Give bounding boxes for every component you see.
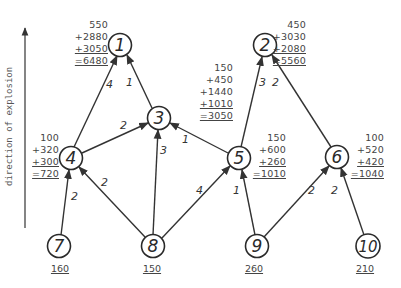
- weight-3-1: 1: [126, 76, 133, 89]
- sum-total: =6480: [75, 55, 108, 67]
- sum-add: +520: [351, 144, 384, 156]
- sum-add: +2080: [273, 43, 306, 55]
- weight-9-6: 2: [308, 184, 315, 197]
- svg-text:4: 4: [66, 148, 77, 168]
- node-9: 9: [246, 235, 269, 258]
- sum-base: 100: [32, 132, 59, 144]
- sum-add: +300: [32, 156, 59, 168]
- node-7: 7: [48, 235, 71, 258]
- sum-node-5: 150 +600 +260 =1010: [253, 132, 286, 180]
- sum-total: =720: [32, 168, 59, 180]
- leaf-value-7: 160: [51, 263, 69, 274]
- explosion-graph: 4 1 2 3 1 3 2 2 2 4 1 2 2 1 2 3 4 5 6 7 …: [0, 0, 401, 288]
- sum-node-2: 450 +3030 +2080 =5560: [273, 19, 306, 67]
- edge-8-4: [79, 167, 145, 237]
- weight-6-2: 2: [272, 76, 279, 89]
- edge-8-3: [153, 130, 158, 235]
- svg-text:2: 2: [260, 35, 271, 55]
- sum-base: 550: [75, 19, 108, 31]
- weight-5-2: 3: [259, 76, 266, 89]
- node-6: 6: [326, 146, 349, 169]
- edge-7-4: [61, 170, 69, 235]
- sum-node-1: 550 +2880 +3050 =6480: [75, 19, 108, 67]
- node-1: 1: [109, 34, 132, 57]
- sum-total: =5560: [273, 55, 306, 67]
- svg-text:3: 3: [154, 108, 165, 128]
- weight-8-5: 4: [196, 184, 203, 197]
- node-5: 5: [228, 147, 251, 170]
- leaf-value-10: 210: [356, 263, 374, 274]
- weight-9-5: 1: [233, 184, 240, 197]
- leaf-value-8: 150: [143, 263, 161, 274]
- weight-5-3: 1: [182, 133, 189, 146]
- sum-total: =3050: [200, 110, 233, 122]
- sum-add: +260: [253, 156, 286, 168]
- weight-4-3: 2: [120, 119, 127, 132]
- sum-total: =1040: [351, 168, 384, 180]
- node-10: 10: [356, 234, 380, 258]
- sum-add: +600: [253, 144, 286, 156]
- sum-add: +450: [200, 74, 233, 86]
- sum-base: 150: [200, 62, 233, 74]
- leaf-value-9: 260: [245, 263, 263, 274]
- sum-base: 100: [351, 132, 384, 144]
- edge-4-3: [82, 123, 148, 153]
- node-4: 4: [60, 147, 83, 170]
- svg-text:10: 10: [358, 238, 377, 256]
- sum-add: +320: [32, 144, 59, 156]
- svg-text:5: 5: [234, 148, 245, 168]
- node-3: 3: [148, 107, 171, 130]
- edge-5-3: [170, 123, 228, 153]
- svg-text:9: 9: [252, 236, 263, 256]
- svg-text:7: 7: [54, 236, 65, 256]
- sum-node-6: 100 +520 +420 =1040: [351, 132, 384, 180]
- weight-8-4: 2: [101, 176, 108, 189]
- weight-7-4: 2: [71, 190, 78, 203]
- weight-10-6: 2: [331, 184, 338, 197]
- sum-node-3: 150 +450 +1440 +1010 =3050: [200, 62, 233, 122]
- sum-add: +3030: [273, 31, 306, 43]
- sum-add: +1010: [200, 98, 233, 110]
- weight-8-3: 3: [160, 144, 167, 157]
- sum-add: +420: [351, 156, 384, 168]
- sum-add: +2880: [75, 31, 108, 43]
- sum-node-4: 100 +320 +300 =720: [32, 132, 59, 180]
- svg-text:8: 8: [148, 236, 159, 256]
- sum-add: +1440: [200, 86, 233, 98]
- weight-4-1: 4: [106, 78, 113, 91]
- sum-base: 150: [253, 132, 286, 144]
- sum-base: 450: [273, 19, 306, 31]
- sum-total: =1010: [253, 168, 286, 180]
- sum-add: +3050: [75, 43, 108, 55]
- svg-text:6: 6: [332, 147, 343, 167]
- edge-4-1: [74, 56, 117, 147]
- axis-label: direction of explosion: [4, 67, 14, 186]
- edge-8-5: [162, 166, 230, 238]
- svg-text:1: 1: [115, 35, 126, 55]
- node-8: 8: [142, 235, 165, 258]
